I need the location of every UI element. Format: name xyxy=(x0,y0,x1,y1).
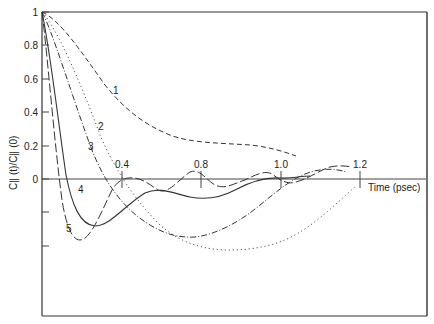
x-tick-label: 0.4 xyxy=(115,159,129,170)
curve-label-5: 5 xyxy=(66,223,72,234)
curve-label-3: 3 xyxy=(88,141,94,152)
x-axis-ticks: 0.40.81.01.2 xyxy=(115,159,367,188)
curve-2 xyxy=(42,12,356,250)
y-tick-label: 0 xyxy=(32,174,38,185)
curve-label-2: 2 xyxy=(98,121,104,132)
y-tick-label: 0.6 xyxy=(24,74,38,85)
y-tick-label: 0.8 xyxy=(24,40,38,51)
curve-labels: 12345 xyxy=(66,85,119,234)
x-axis-label: Time (psec) xyxy=(368,182,420,193)
y-tick-label: 1 xyxy=(32,7,38,18)
x-tick-label: 0.8 xyxy=(194,159,208,170)
x-tick-label: 1.0 xyxy=(274,159,288,170)
y-tick-label: 0.2 xyxy=(24,141,38,152)
curve-1 xyxy=(42,12,296,156)
curves xyxy=(42,12,356,250)
y-axis-label: C∥ (t)/C∥ (0) xyxy=(8,136,20,190)
curve-5 xyxy=(42,12,352,240)
x-tick-label: 1.2 xyxy=(353,159,367,170)
chart: 10.80.60.40.20 0.40.81.01.2 12345 Time (… xyxy=(0,0,434,324)
plot-frame xyxy=(42,12,427,316)
curve-label-4: 4 xyxy=(78,184,84,195)
y-tick-label: 0.4 xyxy=(24,107,38,118)
curve-label-1: 1 xyxy=(113,85,119,96)
curve-3 xyxy=(42,12,346,237)
